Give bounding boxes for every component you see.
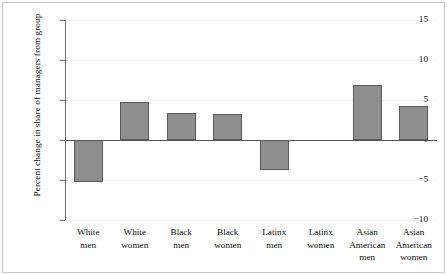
- x-axis-label: Whitemen: [65, 226, 112, 251]
- x-axis-label: Latinxmen: [251, 226, 298, 251]
- x-axis-label-line: women: [112, 239, 159, 252]
- x-axis-label: AsianAmericanwomen: [391, 226, 438, 264]
- x-axis-label-line: White: [65, 226, 112, 239]
- x-axis-label: Blackwomen: [205, 226, 252, 251]
- chart-page: Percent change in share of managers from…: [0, 0, 447, 275]
- bar: [120, 102, 149, 140]
- x-axis-label-line: Asian: [391, 226, 438, 239]
- bar: [260, 140, 289, 170]
- x-axis-label-line: men: [251, 239, 298, 252]
- bar: [353, 85, 382, 140]
- x-axis-label-line: Latinx: [298, 226, 345, 239]
- x-axis-label-line: men: [158, 239, 205, 252]
- x-axis-category-labels: WhitemenWhitewomenBlackmenBlackwomenLati…: [65, 226, 437, 272]
- y-tick-mark: [60, 220, 65, 221]
- x-axis-label-line: White: [112, 226, 159, 239]
- x-axis-label-line: women: [298, 239, 345, 252]
- x-axis-label-line: Black: [205, 226, 252, 239]
- y-axis-title: Percent change in share of managers from…: [32, 5, 42, 205]
- x-axis-label-line: American: [391, 239, 438, 252]
- gridline: [66, 220, 437, 221]
- x-axis-label: Whitewomen: [112, 226, 159, 251]
- bar: [213, 114, 242, 140]
- x-axis-label-line: women: [391, 251, 438, 264]
- x-axis-label-line: American: [344, 239, 391, 252]
- x-axis-label-line: Black: [158, 226, 205, 239]
- bar: [74, 140, 103, 182]
- plot-area: 151050−5−10: [65, 20, 437, 220]
- x-axis-label-line: Latinx: [251, 226, 298, 239]
- x-axis-label-line: men: [65, 239, 112, 252]
- x-axis-label-line: women: [205, 239, 252, 252]
- bar: [399, 106, 428, 140]
- bar: [167, 113, 196, 140]
- x-axis-label: Latinxwomen: [298, 226, 345, 251]
- x-axis-label-line: Asian: [344, 226, 391, 239]
- x-axis-label: AsianAmericanmen: [344, 226, 391, 264]
- x-axis-label: Blackmen: [158, 226, 205, 251]
- x-axis-label-line: men: [344, 251, 391, 264]
- bar-series: [65, 20, 437, 220]
